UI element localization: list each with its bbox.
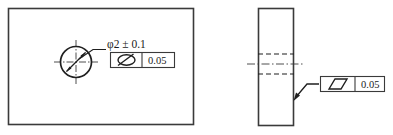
fcf-front-tolerance: 0.05 xyxy=(148,55,166,66)
feature-control-frame-front[interactable]: 0.05 xyxy=(111,53,175,68)
leader-line-side[interactable] xyxy=(294,84,320,101)
hole-dimension-label: φ2 ± 0.1 xyxy=(107,38,146,51)
fcf-side-tolerance: 0.05 xyxy=(361,79,379,90)
front-view: φ2 ± 0.1 0.05 xyxy=(9,9,194,125)
feature-control-frame-side[interactable]: 0.05 xyxy=(321,77,385,92)
side-view: 0.05 xyxy=(247,9,385,126)
side-view-outline xyxy=(259,9,294,126)
drawing-sheet: φ2 ± 0.1 0.05 xyxy=(0,0,393,135)
technical-drawing-canvas: φ2 ± 0.1 0.05 xyxy=(0,0,393,135)
